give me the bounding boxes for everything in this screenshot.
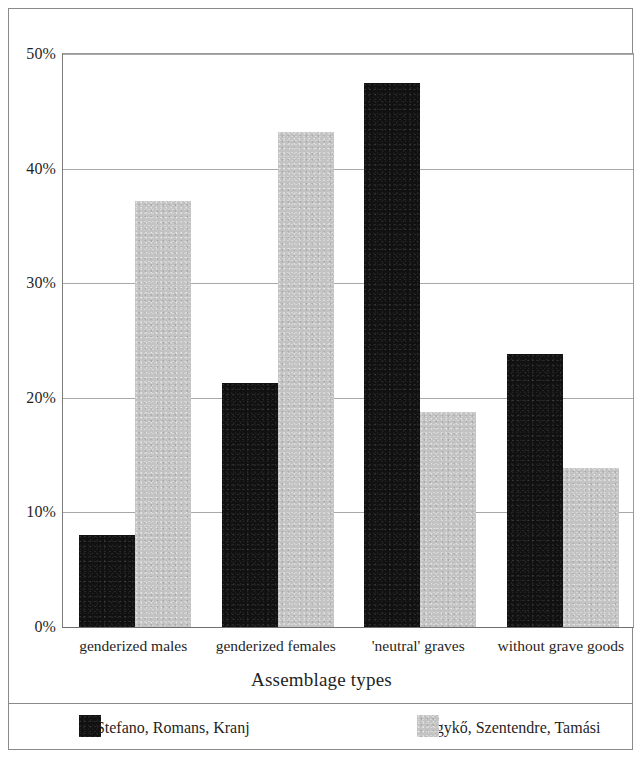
y-axis-tick-label: 40% — [26, 160, 56, 178]
x-axis-tick-labels: genderized malesgenderized females'neutr… — [62, 637, 633, 663]
legend-swatch-dark-icon — [79, 715, 101, 737]
bar-group — [349, 54, 492, 627]
bar — [222, 383, 278, 627]
bar-groups — [64, 54, 634, 627]
x-axis-title: Assemblage types — [9, 669, 634, 691]
legend-swatch-light-icon — [417, 715, 439, 737]
bar — [79, 535, 135, 627]
y-axis-tick-label: 50% — [26, 45, 56, 63]
bar — [507, 354, 563, 627]
x-axis-tick-label: without grave goods — [472, 637, 641, 655]
legend-label-light: Hegykő, Szentendre, Tamási — [417, 719, 600, 737]
bar-group — [207, 54, 350, 627]
legend-label-dark: S. Stefano, Romans, Kranj — [79, 719, 250, 737]
bar — [135, 201, 191, 627]
bar — [420, 412, 476, 627]
bar — [278, 132, 334, 627]
y-axis-tick-label: 0% — [34, 618, 56, 636]
bar — [364, 83, 420, 627]
bar-group — [492, 54, 635, 627]
y-axis-tick-label: 20% — [26, 389, 56, 407]
chart-legend: S. Stefano, Romans, Kranj Hegykő, Szente… — [9, 711, 634, 758]
y-axis-tick-label: 10% — [26, 503, 56, 521]
plot-wrapper: 0%10%20%30%40%50% — [62, 45, 633, 627]
legend-divider — [9, 703, 632, 704]
plot-area: 0%10%20%30%40%50% — [62, 53, 634, 628]
y-axis-tick-label: 30% — [26, 274, 56, 292]
figure-frame: 0%10%20%30%40%50% genderized malesgender… — [8, 8, 633, 750]
bar-group — [64, 54, 207, 627]
legend-item-light: Hegykő, Szentendre, Tamási — [417, 719, 600, 737]
legend-item-dark: S. Stefano, Romans, Kranj — [79, 719, 250, 737]
bar — [563, 468, 619, 627]
